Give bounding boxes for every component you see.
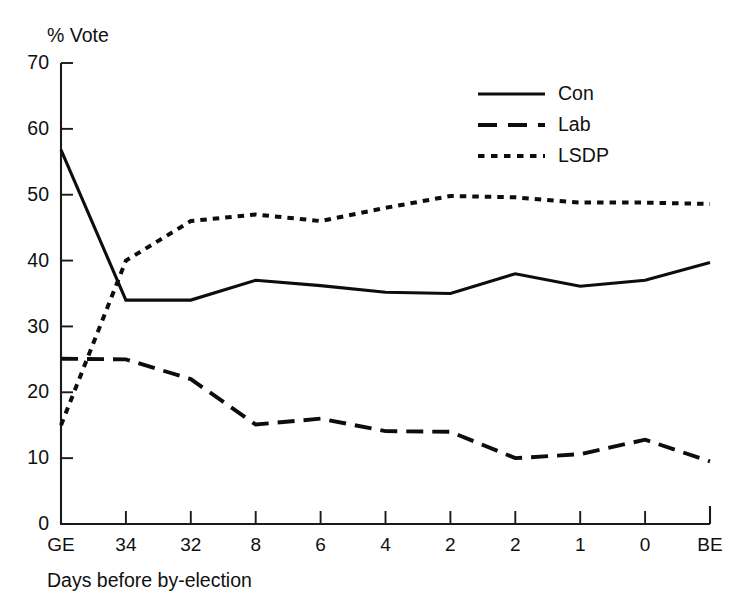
series-line-con xyxy=(61,150,710,300)
legend-label-lsdp: LSDP xyxy=(558,144,609,166)
y-tick-label-0: 0 xyxy=(38,512,49,534)
x-tick-label-5: 4 xyxy=(380,534,391,555)
x-tick-label-0: GE xyxy=(47,534,74,555)
x-tick-label-2: 32 xyxy=(180,534,201,555)
y-tick-label-70: 70 xyxy=(27,51,49,73)
y-tick-label-50: 50 xyxy=(27,183,49,205)
x-tick-label-3: 8 xyxy=(250,534,261,555)
y-tick-label-60: 60 xyxy=(27,117,49,139)
x-axis-tick-labels: GE34328642210BE xyxy=(47,534,722,555)
x-tick-label-10: BE xyxy=(697,534,722,555)
y-axis-ticks xyxy=(61,129,73,524)
line-chart: % Vote 010203040506070 GE34328642210BE C… xyxy=(0,0,746,610)
y-axis-tick-labels: 010203040506070 xyxy=(27,51,49,534)
y-tick-label-20: 20 xyxy=(27,380,49,402)
y-tick-label-10: 10 xyxy=(27,446,49,468)
series-line-lab xyxy=(61,359,710,462)
legend-label-con: Con xyxy=(558,82,594,104)
x-tick-label-9: 0 xyxy=(640,534,651,555)
x-axis-ticks xyxy=(126,511,645,524)
series-line-lsdp xyxy=(61,196,710,425)
y-axis-title: % Vote xyxy=(47,24,109,46)
legend: Con Lab LSDP xyxy=(478,82,609,166)
x-tick-label-6: 2 xyxy=(445,534,456,555)
y-tick-label-40: 40 xyxy=(27,249,49,271)
x-tick-label-8: 1 xyxy=(575,534,586,555)
x-axis-title: Days before by-election xyxy=(47,569,252,591)
x-tick-label-1: 34 xyxy=(115,534,137,555)
chart-container: % Vote 010203040506070 GE34328642210BE C… xyxy=(0,0,746,610)
legend-label-lab: Lab xyxy=(558,113,591,135)
y-tick-label-30: 30 xyxy=(27,315,49,337)
x-tick-label-7: 2 xyxy=(510,534,521,555)
x-tick-label-4: 6 xyxy=(315,534,326,555)
